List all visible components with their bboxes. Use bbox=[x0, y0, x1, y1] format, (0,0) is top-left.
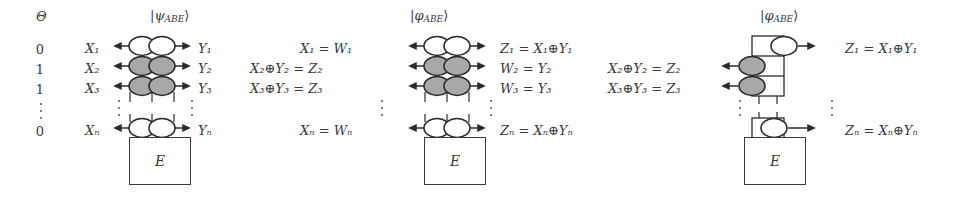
phi-right-left-vdots bbox=[738, 100, 741, 116]
phi-mid-symbol: φ bbox=[414, 8, 423, 23]
psi-eve-box: E bbox=[129, 137, 191, 185]
phi-right-ket: ⟩ bbox=[793, 8, 798, 23]
phi-right-left-label-2: X₂⊕Y₂ = Z₂ bbox=[608, 61, 681, 76]
phi-mid-eve-box: E bbox=[424, 137, 486, 185]
psi-left-label-1: X₁ bbox=[85, 41, 99, 56]
phi-right-right-label-n: Zₙ = Xₙ⊕Yₙ bbox=[845, 123, 918, 138]
phi-right-left-label-3: X₃⊕Y₃ = Z₃ bbox=[608, 81, 681, 96]
psi-symbol: ψ bbox=[154, 8, 164, 23]
phi-mid-left-label-3: X₃⊕Y₃ = Z₃ bbox=[250, 81, 323, 96]
phi-mid-subscript: ABE bbox=[424, 14, 444, 24]
phi-right-eve-label: E bbox=[770, 153, 780, 169]
phi-mid-eve-label: E bbox=[450, 153, 460, 169]
phi-mid-left-label-2: X₂⊕Y₂ = Z₂ bbox=[250, 61, 323, 76]
phi-mid-ket: ⟩ bbox=[443, 8, 448, 23]
phi-mid-right-label-n: Zₙ = Xₙ⊕Yₙ bbox=[500, 123, 573, 138]
theta-header: Θ bbox=[36, 9, 47, 24]
phi-mid-right-label-2: W₂ = Y₂ bbox=[500, 61, 552, 76]
theta-vdots bbox=[39, 103, 42, 119]
panel-phi-right-title: |φABE⟩ bbox=[760, 8, 798, 24]
theta-value-row3: 1 bbox=[33, 82, 47, 97]
psi-left-label-2: X₂ bbox=[85, 61, 99, 76]
phi-right-right-label-1: Z₁ = X₁⊕Y₁ bbox=[845, 41, 918, 56]
phi-mid-right-label-3: W₃ = Y₃ bbox=[500, 81, 552, 96]
psi-left-label-n: Xₙ bbox=[85, 123, 100, 138]
phi-mid-left-vdots bbox=[380, 100, 383, 116]
panel-psi-title: |ψABE⟩ bbox=[150, 8, 189, 24]
psi-eve-label: E bbox=[155, 153, 165, 169]
figure-root: Θ 0 1 1 0 |ψABE⟩ X₁ X₂ X₃ Xₙ Y₁ Y₂ Y₃ Yₙ bbox=[0, 0, 954, 200]
theta-value-row1: 0 bbox=[33, 42, 47, 57]
phi-mid-left-label-n: Xₙ = Wₙ bbox=[300, 123, 352, 138]
psi-subscript: ABE bbox=[165, 14, 185, 24]
psi-ket: ⟩ bbox=[184, 8, 189, 23]
theta-value-rown: 0 bbox=[33, 124, 47, 139]
phi-mid-left-label-1: X₁ = W₁ bbox=[300, 41, 352, 56]
phi-mid-right-label-1: Z₁ = X₁⊕Y₁ bbox=[500, 41, 573, 56]
phi-right-diagram-svg bbox=[742, 30, 852, 145]
phi-mid-diagram-svg bbox=[405, 30, 505, 145]
psi-left-label-3: X₃ bbox=[85, 81, 99, 96]
theta-value-row2: 1 bbox=[33, 62, 47, 77]
phi-right-eve-box: E bbox=[744, 137, 806, 185]
phi-right-subscript: ABE bbox=[774, 14, 794, 24]
panel-phi-mid-title: |φABE⟩ bbox=[410, 8, 448, 24]
phi-right-symbol: φ bbox=[764, 8, 773, 23]
psi-diagram-svg bbox=[110, 30, 210, 145]
